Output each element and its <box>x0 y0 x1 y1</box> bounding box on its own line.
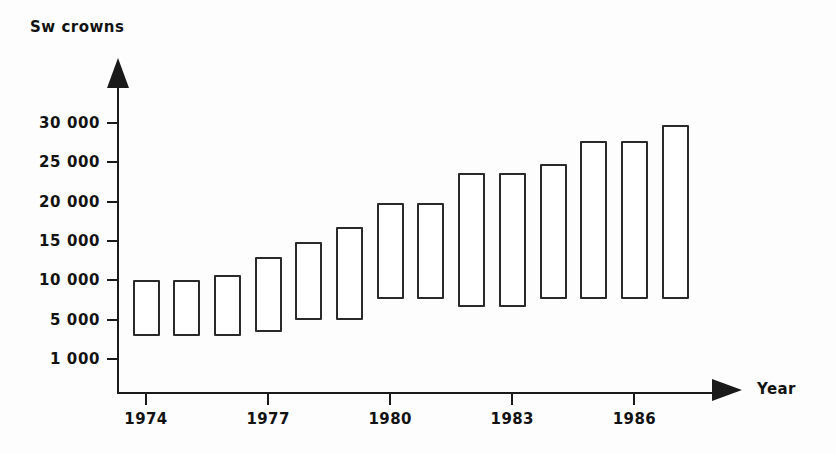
y-axis-label-wrap: 10 000 <box>0 280 100 281</box>
x-axis-label: 1977 <box>228 410 308 428</box>
y-axis-label: 1 000 <box>14 350 100 368</box>
y-axis-label: 15 000 <box>14 232 100 250</box>
bar <box>255 257 282 332</box>
y-axis-label-wrap: 15 000 <box>0 241 100 242</box>
x-axis-label: 1983 <box>472 410 552 428</box>
bar <box>417 203 444 299</box>
y-axis-tick <box>107 161 118 163</box>
y-axis-label-wrap: 30 000 <box>0 123 100 124</box>
x-axis-tick <box>511 394 513 405</box>
bar <box>662 125 689 299</box>
x-axis-title: Year <box>757 380 796 398</box>
bar <box>377 203 404 299</box>
bar <box>499 173 526 307</box>
x-axis-label: 1986 <box>594 410 674 428</box>
x-axis-tick <box>633 394 635 405</box>
bar <box>133 280 160 336</box>
y-axis-label-wrap: 1 000 <box>0 359 100 360</box>
x-axis-tick <box>145 394 147 405</box>
x-axis-label: 1974 <box>106 410 186 428</box>
y-axis-label: 30 000 <box>14 114 100 132</box>
y-axis-tick <box>107 240 118 242</box>
y-axis-label-wrap: 5 000 <box>0 320 100 321</box>
y-axis-tick <box>107 122 118 124</box>
x-axis-arrow-icon <box>712 379 742 401</box>
bar <box>458 173 485 307</box>
bar <box>295 242 322 320</box>
x-axis-tick <box>389 394 391 405</box>
x-axis-tick <box>267 394 269 405</box>
bar <box>621 141 648 299</box>
bar <box>580 141 607 299</box>
y-axis-label: 5 000 <box>14 311 100 329</box>
chart-root: Sw crowns 30 00025 00020 00015 00010 000… <box>0 0 836 454</box>
x-axis-line <box>117 392 720 394</box>
y-axis-label: 25 000 <box>14 153 100 171</box>
y-axis-label: 10 000 <box>14 271 100 289</box>
x-axis-label: 1980 <box>350 410 430 428</box>
y-axis-arrow-icon <box>107 58 129 88</box>
bar <box>214 275 241 337</box>
y-axis-tick <box>107 201 118 203</box>
y-axis-tick <box>107 358 118 360</box>
y-axis-title: Sw crowns <box>30 18 124 36</box>
y-axis-label: 20 000 <box>14 193 100 211</box>
bar <box>540 164 567 299</box>
y-axis-label-wrap: 25 000 <box>0 162 100 163</box>
bar <box>173 280 200 336</box>
bar <box>336 227 363 321</box>
y-axis-tick <box>107 279 118 281</box>
y-axis-tick <box>107 319 118 321</box>
y-axis-label-wrap: 20 000 <box>0 202 100 203</box>
